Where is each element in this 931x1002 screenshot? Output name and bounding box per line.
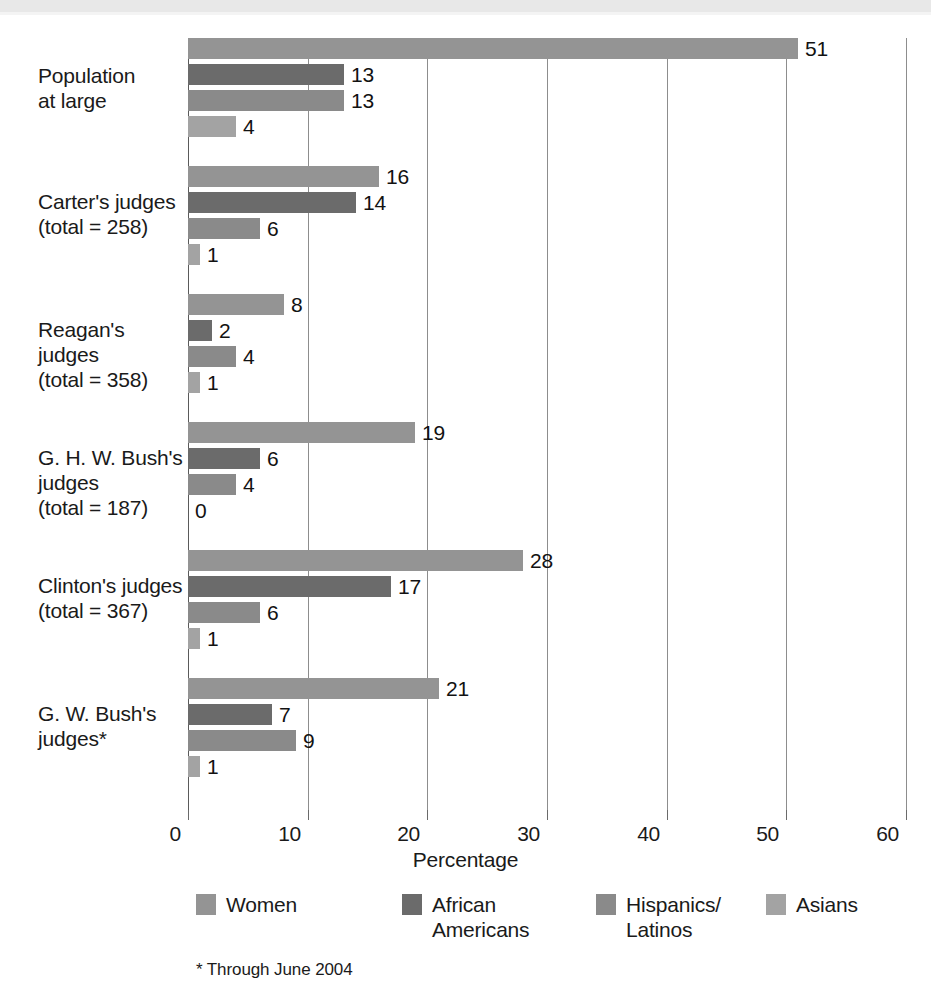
bar-value-label: 0 (195, 498, 206, 522)
bar-value-label: 6 (267, 600, 278, 624)
bar-value-label: 1 (207, 370, 218, 394)
bar (188, 474, 236, 495)
bar-value-label: 4 (243, 344, 254, 368)
bar-row: 21 (188, 678, 906, 699)
bar-value-label: 6 (267, 216, 278, 240)
bar (188, 678, 439, 699)
bar-row: 6 (188, 448, 906, 469)
bar (188, 244, 200, 265)
bar (188, 730, 296, 751)
x-tick-30 (547, 810, 548, 820)
x-tick-label-40: 40 (637, 822, 667, 846)
bar-value-label: 1 (207, 242, 218, 266)
bar-row: 16 (188, 166, 906, 187)
x-tick-label-0: 0 (170, 822, 188, 846)
legend-swatch-icon (402, 894, 422, 915)
bar-row: 9 (188, 730, 906, 751)
bar-value-label: 51 (805, 36, 828, 60)
legend-item: Women (196, 892, 297, 917)
bar-row: 6 (188, 602, 906, 623)
x-tick-label-20: 20 (397, 822, 427, 846)
x-tick-10 (308, 810, 309, 820)
legend-item: Asians (766, 892, 858, 917)
bar-row: 17 (188, 576, 906, 597)
legend-swatch-icon (196, 894, 216, 915)
bar-value-label: 13 (351, 88, 374, 112)
bar-row: 13 (188, 90, 906, 111)
bar-value-label: 9 (303, 728, 314, 752)
bar (188, 166, 379, 187)
legend-label: Hispanics/ Latinos (626, 892, 721, 942)
bar (188, 90, 344, 111)
bar (188, 704, 272, 725)
bar-row: 7 (188, 704, 906, 725)
bar (188, 550, 523, 571)
bar (188, 372, 200, 393)
bar-row: 8 (188, 294, 906, 315)
bar (188, 602, 260, 623)
category-label: Carter's judges (total = 258) (38, 189, 188, 239)
gridline-60 (906, 38, 907, 810)
x-axis-title: Percentage (0, 848, 931, 872)
bar-group: 19640 (188, 422, 906, 521)
legend-item: African Americans (402, 892, 529, 942)
legend-swatch-icon (766, 894, 786, 915)
bar (188, 448, 260, 469)
bar-row: 19 (188, 422, 906, 443)
grouped-bar-chart: 511313416146182411964028176121791 Popula… (0, 0, 931, 1002)
category-label: Reagan's judges (total = 358) (38, 317, 188, 392)
bar-value-label: 21 (446, 676, 469, 700)
bar-value-label: 1 (207, 754, 218, 778)
bar-group: 5113134 (188, 38, 906, 137)
bar (188, 218, 260, 239)
x-tick-label-10: 10 (278, 822, 308, 846)
bar-row: 6 (188, 218, 906, 239)
category-label: Clinton's judges (total = 367) (38, 573, 188, 623)
category-label: Population at large (38, 63, 188, 113)
x-tick-label-50: 50 (756, 822, 786, 846)
bar (188, 756, 200, 777)
bar-value-label: 6 (267, 446, 278, 470)
bar-row: 4 (188, 346, 906, 367)
x-tick-0 (188, 810, 189, 820)
x-tick-40 (667, 810, 668, 820)
bar-row: 1 (188, 756, 906, 777)
bar (188, 192, 356, 213)
bar-row: 1 (188, 628, 906, 649)
x-tick-60 (906, 810, 907, 820)
x-tick-20 (427, 810, 428, 820)
bar-row: 13 (188, 64, 906, 85)
bar-row: 51 (188, 38, 906, 59)
bar-row: 1 (188, 372, 906, 393)
bar-group: 281761 (188, 550, 906, 649)
bar-value-label: 16 (386, 164, 409, 188)
legend-label: African Americans (432, 892, 529, 942)
x-tick-label-60: 60 (876, 822, 906, 846)
bar (188, 116, 236, 137)
bar (188, 64, 344, 85)
bar-row: 1 (188, 244, 906, 265)
legend-item: Hispanics/ Latinos (596, 892, 721, 942)
bar-value-label: 2 (219, 318, 230, 342)
footnote: * Through June 2004 (196, 960, 353, 980)
bar (188, 38, 798, 59)
bar-row: 14 (188, 192, 906, 213)
legend-label: Women (226, 892, 297, 917)
plot-area: 511313416146182411964028176121791 (188, 38, 906, 810)
bar-group: 8241 (188, 294, 906, 393)
bar (188, 422, 415, 443)
bar-value-label: 17 (398, 574, 421, 598)
category-label: G. W. Bush's judges* (38, 701, 188, 751)
bar-group: 21791 (188, 678, 906, 777)
bar-row: 4 (188, 474, 906, 495)
x-tick-label-30: 30 (517, 822, 547, 846)
bar-value-label: 7 (279, 702, 290, 726)
legend-label: Asians (796, 892, 858, 917)
bar (188, 576, 391, 597)
bar (188, 628, 200, 649)
bar-value-label: 28 (530, 548, 553, 572)
bar (188, 294, 284, 315)
bar (188, 346, 236, 367)
bar-row: 2 (188, 320, 906, 341)
bar-value-label: 4 (243, 472, 254, 496)
